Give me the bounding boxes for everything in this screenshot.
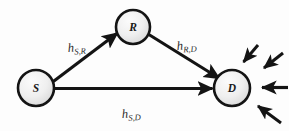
edge-label-r-d-sub: R,D <box>182 44 198 55</box>
edge-label-s-r-sub: S,R <box>74 46 87 57</box>
node-r-label: R <box>128 21 137 33</box>
node-s[interactable]: S <box>18 70 54 106</box>
node-r[interactable]: R <box>116 10 150 44</box>
diagram-canvas: S R D hS,R hR,D hS,D <box>0 0 289 131</box>
nodes: S R D <box>18 10 250 106</box>
interference-arrow-lower <box>258 106 281 123</box>
edge-labels: hS,R hR,D hS,D <box>67 38 198 123</box>
edge-label-s-d-sub: S,D <box>128 112 142 123</box>
edge-label-r-d: hR,D <box>176 38 198 55</box>
node-d[interactable]: D <box>214 70 250 106</box>
node-s-label: S <box>33 82 39 94</box>
node-d-label: D <box>227 82 237 94</box>
edge-line-r-d <box>148 34 220 79</box>
interference-arrow-upper-2 <box>264 53 283 68</box>
edge-label-s-d: hS,D <box>121 106 141 123</box>
relay-channel-figure: S R D hS,R hR,D hS,D <box>0 0 289 131</box>
edge-label-s-r: hS,R <box>67 40 87 57</box>
edge-line-s-r <box>50 33 118 84</box>
interference-arrow-upper-1 <box>244 45 259 62</box>
